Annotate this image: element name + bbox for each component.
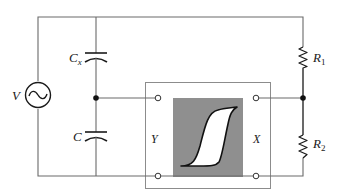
res-top-label: R1 <box>312 50 325 67</box>
circuit-diagram: V Cx C Y X R1 R2 <box>0 0 337 195</box>
junction-dot-left <box>93 95 99 101</box>
junction-dot-right <box>300 95 306 101</box>
terminal-x-bottom[interactable] <box>253 173 259 179</box>
cap-top-label: Cx <box>69 50 82 67</box>
terminal-y-bottom[interactable] <box>155 173 161 179</box>
top-wire <box>38 17 303 81</box>
res-bottom-label: R2 <box>312 136 325 153</box>
scope-x-label: X <box>252 132 261 146</box>
terminal-y-top[interactable] <box>155 95 161 101</box>
terminal-x-top[interactable] <box>253 95 259 101</box>
cap-bottom-label: C <box>73 129 82 144</box>
resistor-r1-icon <box>299 47 307 135</box>
source-label: V <box>12 88 22 103</box>
resistor-r2-icon <box>299 135 307 158</box>
